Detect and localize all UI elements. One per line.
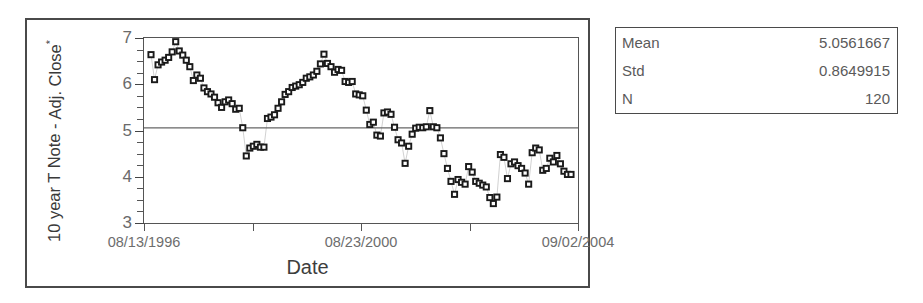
data-point-marker <box>275 106 280 111</box>
y-axis-minor-tick <box>137 165 144 166</box>
data-point-marker <box>523 170 528 175</box>
data-point-marker <box>551 159 556 164</box>
y-axis-minor-tick <box>137 96 144 97</box>
y-axis-title-line-1: 10 year T Note - <box>45 123 64 242</box>
stat-label-std: Std <box>622 63 645 78</box>
data-point-marker <box>170 49 175 54</box>
data-point-marker <box>388 112 393 117</box>
y-axis-tick-label: 6 <box>123 75 132 92</box>
stat-label-mean: Mean <box>622 35 660 50</box>
data-point-marker <box>219 105 224 110</box>
x-axis-tick-label: 08/23/2000 <box>325 235 398 250</box>
data-point-marker <box>537 147 542 152</box>
data-point-marker <box>399 140 404 145</box>
data-point-marker <box>318 61 323 66</box>
y-axis-minor-tick <box>137 50 144 51</box>
stat-value-n: 120 <box>633 91 890 106</box>
y-axis-tick <box>135 131 144 132</box>
data-point-marker <box>237 106 242 111</box>
data-point-marker <box>212 95 217 100</box>
data-point-marker <box>487 195 492 200</box>
y-axis-tick-label: 3 <box>123 214 132 231</box>
data-point-marker <box>406 144 411 149</box>
data-point-marker <box>526 182 531 187</box>
stat-label-n: N <box>622 91 633 106</box>
y-axis-title-line-2: Adj. Close* <box>44 40 64 119</box>
data-point-marker <box>244 153 249 158</box>
y-axis-minor-tick <box>137 211 144 212</box>
data-point-marker <box>279 99 284 104</box>
data-point-marker <box>261 145 266 150</box>
data-point-marker <box>152 77 157 82</box>
data-point-marker <box>272 112 277 117</box>
y-axis-title-asterisk: * <box>44 40 56 44</box>
y-axis-tick <box>135 177 144 178</box>
stat-value-mean: 5.0561667 <box>660 35 890 50</box>
data-point-marker <box>424 124 429 129</box>
data-point-marker <box>148 52 153 57</box>
y-axis-title: 10 year T Note - Adj. Close* <box>25 41 83 241</box>
data-point-marker <box>434 125 439 130</box>
y-axis-tick-label: 5 <box>123 122 132 139</box>
data-point-marker <box>321 52 326 57</box>
data-point-marker <box>230 101 235 106</box>
y-axis-tick <box>135 223 144 224</box>
plot-area: 3456708/13/199608/23/200009/02/2004 <box>143 37 579 224</box>
data-point-marker <box>403 161 408 166</box>
data-point-group <box>148 39 573 206</box>
y-axis-tick-label: 4 <box>123 168 132 185</box>
y-axis-minor-tick <box>137 142 144 143</box>
stat-value-std: 0.8649915 <box>645 63 890 78</box>
data-point-marker <box>463 182 468 187</box>
data-point-marker <box>544 166 549 171</box>
x-axis-tick <box>361 223 362 231</box>
data-point-marker <box>364 108 369 113</box>
data-point-marker <box>378 133 383 138</box>
summary-statistics-table: Mean 5.0561667 Std 0.8649915 N 120 <box>615 27 898 114</box>
x-axis-tick <box>578 223 579 231</box>
data-point-marker <box>466 164 471 169</box>
data-point-marker <box>410 132 415 137</box>
x-axis-tick <box>253 223 254 231</box>
y-axis-minor-tick <box>137 119 144 120</box>
data-point-marker <box>494 195 499 200</box>
y-axis-minor-tick <box>137 61 144 62</box>
data-point-marker <box>558 161 563 166</box>
y-axis-minor-tick <box>137 200 144 201</box>
data-point-marker <box>198 76 203 81</box>
data-point-marker <box>360 93 365 98</box>
data-point-marker <box>470 170 475 175</box>
data-point-marker <box>339 68 344 73</box>
data-point-marker <box>568 172 573 177</box>
data-point-marker <box>350 79 355 84</box>
y-axis-minor-tick <box>137 73 144 74</box>
data-point-marker <box>314 69 319 74</box>
data-point-marker <box>166 55 171 60</box>
data-point-marker <box>427 108 432 113</box>
table-row: Std 0.8649915 <box>616 56 897 84</box>
data-point-marker <box>554 153 559 158</box>
x-axis-tick <box>144 223 145 231</box>
data-point-marker <box>371 120 376 125</box>
y-axis-tick-label: 7 <box>123 29 132 46</box>
y-axis-tick <box>135 38 144 39</box>
y-axis-minor-tick <box>137 107 144 108</box>
data-point-marker <box>191 78 196 83</box>
y-axis-minor-tick <box>137 154 144 155</box>
data-point-marker <box>187 64 192 69</box>
chart-panel: 10 year T Note - Adj. Close* 3456708/13/… <box>25 18 590 288</box>
x-axis-tick-label: 09/02/2004 <box>542 235 615 250</box>
data-point-marker <box>505 176 510 181</box>
data-point-marker <box>173 39 178 44</box>
data-point-marker <box>491 201 496 206</box>
table-row: Mean 5.0561667 <box>616 28 897 56</box>
data-point-marker <box>438 135 443 140</box>
data-point-marker <box>240 125 245 130</box>
y-axis-title-line-2-text: Adj. Close <box>45 44 63 119</box>
y-axis-minor-tick <box>137 188 144 189</box>
data-point-marker <box>501 155 506 160</box>
data-point-marker <box>445 166 450 171</box>
data-point-marker <box>452 192 457 197</box>
scatter-plot-svg <box>144 38 578 223</box>
data-point-marker <box>448 179 453 184</box>
